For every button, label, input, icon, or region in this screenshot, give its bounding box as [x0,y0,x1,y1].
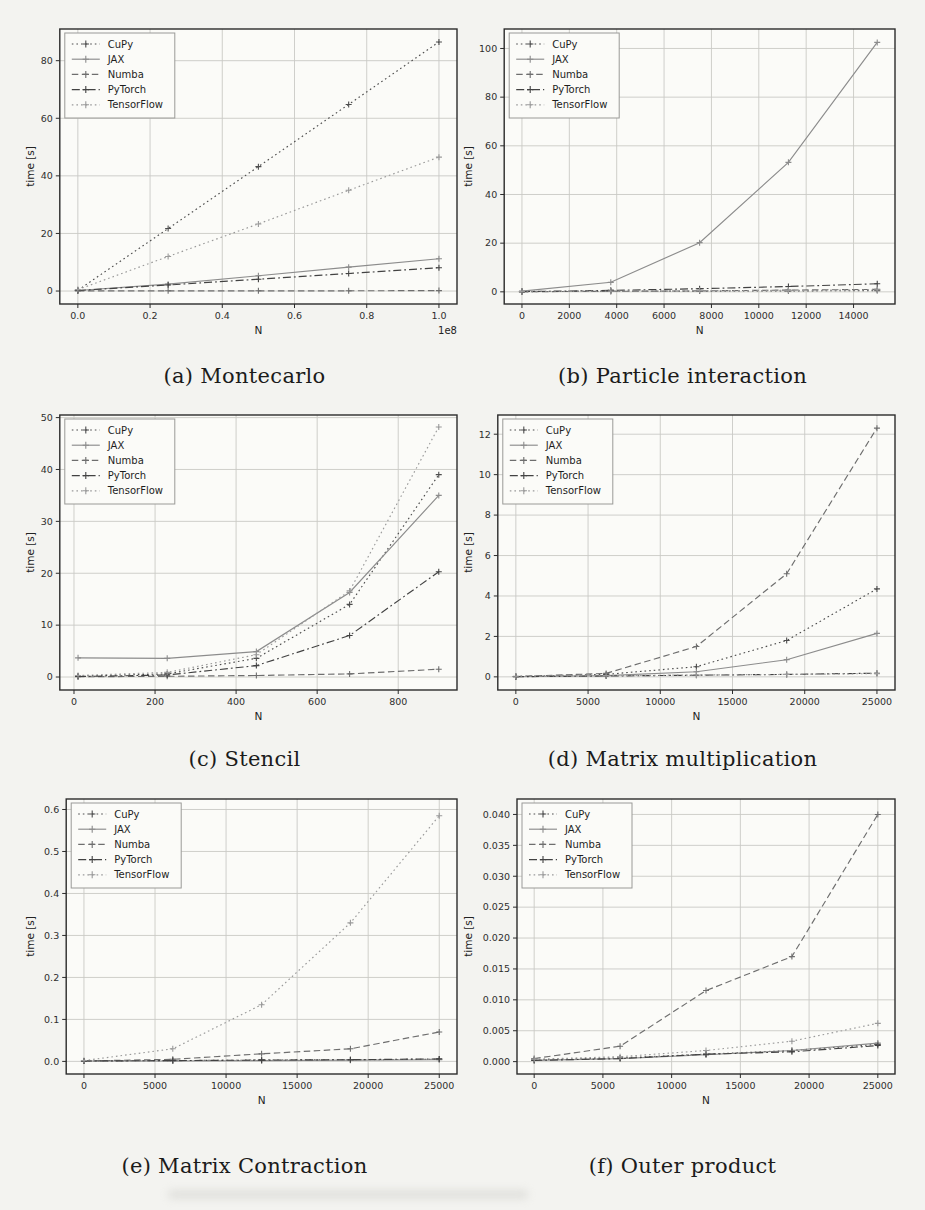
y-axis-ticks: 01020304050 [41,412,60,682]
y-tick-label: 0.025 [483,901,510,912]
legend-label: Numba [565,839,601,850]
legend-label: CuPy [546,425,571,436]
legend-label: PyTorch [552,84,590,95]
legend-label: TensorFlow [564,869,620,880]
x-tick-label: 400 [227,696,245,707]
x-tick-label: 10000 [645,696,675,707]
y-axis-ticks: 024681012 [479,429,498,683]
legend-label: TensorFlow [113,869,169,880]
y-tick-label: 10 [479,469,491,480]
caption-montecarlo: (a) Montecarlo [22,364,467,388]
y-axis-ticks: 0.00.10.20.30.40.50.6 [44,804,66,1067]
legend-label: TensorFlow [107,99,163,110]
y-axis-label: time [s] [24,532,36,573]
figure-panel-outer-product: 05000100001500020000250000.0000.0050.010… [460,786,905,1178]
x-tick-label: 0 [513,696,519,707]
x-tick-label: 0 [71,696,77,707]
legend-label: CuPy [108,39,133,50]
x-tick-label: 4000 [605,310,629,321]
y-tick-label: 6 [485,550,491,561]
y-tick-label: 4 [485,590,491,601]
x-axis-ticks: 0500010000150002000025000 [513,690,892,707]
y-axis-label: time [s] [462,146,474,187]
x-tick-label: 6000 [652,310,676,321]
x-tick-label: 0.6 [287,310,302,321]
y-tick-label: 0.1 [44,1014,59,1025]
legend-label: JAX [107,54,125,65]
chart-montecarlo: 0.00.20.40.60.81.0020406080N1e8time [s]C… [22,16,467,351]
x-tick-label: 15000 [717,696,747,707]
legend-label: Numba [552,69,588,80]
y-axis-ticks: 020406080100 [479,43,504,297]
y-tick-label: 0.5 [44,846,59,857]
legend-label: Numba [108,69,144,80]
x-tick-label: 0.8 [359,310,374,321]
y-axis-label: time [s] [462,532,474,573]
x-tick-label: 800 [389,696,407,707]
legend-label: JAX [113,824,131,835]
x-tick-label: 200 [146,696,164,707]
legend-label: PyTorch [546,470,584,481]
y-tick-label: 40 [41,170,53,181]
x-tick-label: 25000 [863,1080,893,1091]
x-tick-label: 20000 [353,1080,383,1091]
chart-particle-interaction: 0200040006000800010000120001400002040608… [460,16,905,351]
caption-outer-product: (f) Outer product [460,1154,905,1178]
legend: CuPyJAXNumbaPyTorchTensorFlow [65,419,175,504]
y-tick-label: 0.005 [483,1025,510,1036]
page-bottom-smudge [168,1190,528,1199]
x-tick-label: 1.0 [431,310,446,321]
x-tick-label: 8000 [699,310,723,321]
x-tick-label: 25000 [424,1080,454,1091]
y-tick-label: 8 [485,509,491,520]
y-tick-label: 0.040 [483,809,510,820]
legend-label: TensorFlow [107,485,163,496]
y-tick-label: 0.015 [483,963,510,974]
figure-panel-matrix-contraction: 05000100001500020000250000.00.10.20.30.4… [22,786,467,1178]
x-axis-label: N [254,324,262,336]
figure-panel-particle-interaction: 0200040006000800010000120001400002040608… [460,16,905,388]
figure-panel-matrix-multiplication: 0500010000150002000025000024681012Ntime … [460,402,905,771]
x-tick-label: 20000 [794,1080,824,1091]
x-axis-ticks: 0.00.20.40.60.81.0 [70,304,446,321]
x-axis-ticks: 02000400060008000100001200014000 [519,304,869,321]
y-tick-label: 0.000 [483,1056,510,1067]
legend-label: TensorFlow [551,99,607,110]
x-tick-label: 5000 [143,1080,167,1091]
y-tick-label: 20 [485,237,497,248]
chart-matrix-contraction: 05000100001500020000250000.00.10.20.30.4… [22,786,467,1121]
caption-matrix-multiplication: (d) Matrix multiplication [460,747,905,771]
legend-label: CuPy [114,809,139,820]
y-tick-label: 0.3 [44,930,59,941]
x-offset-label: 1e8 [438,325,457,336]
y-tick-label: 0.4 [44,888,59,899]
x-tick-label: 15000 [725,1080,755,1091]
legend-label: PyTorch [114,854,152,865]
x-axis-label: N [254,710,262,722]
x-axis-label: N [702,1094,710,1106]
x-tick-label: 0.0 [70,310,85,321]
y-axis-label: time [s] [462,916,474,957]
y-tick-label: 0.2 [44,972,59,983]
scanned-paper-page: 0.00.20.40.60.81.0020406080N1e8time [s]C… [0,0,925,1210]
legend-label: PyTorch [108,470,146,481]
y-tick-label: 40 [41,464,53,475]
x-tick-label: 12000 [791,310,821,321]
x-tick-label: 600 [308,696,326,707]
x-tick-label: 0 [519,310,525,321]
x-axis-label: N [258,1094,266,1106]
x-axis-ticks: 0200400600800 [71,690,407,707]
chart-outer-product: 05000100001500020000250000.0000.0050.010… [460,786,905,1121]
x-tick-label: 10000 [657,1080,687,1091]
legend-label: Numba [546,455,582,466]
x-tick-label: 10000 [211,1080,241,1091]
legend-label: JAX [545,440,563,451]
legend-label: CuPy [552,39,577,50]
y-tick-label: 50 [41,412,53,423]
x-tick-label: 10000 [744,310,774,321]
y-tick-label: 100 [479,43,497,54]
y-axis-ticks: 020406080 [41,55,60,296]
chart-stencil: 020040060080001020304050Ntime [s]CuPyJAX… [22,402,467,737]
y-tick-label: 0 [47,671,53,682]
y-tick-label: 2 [485,631,491,642]
